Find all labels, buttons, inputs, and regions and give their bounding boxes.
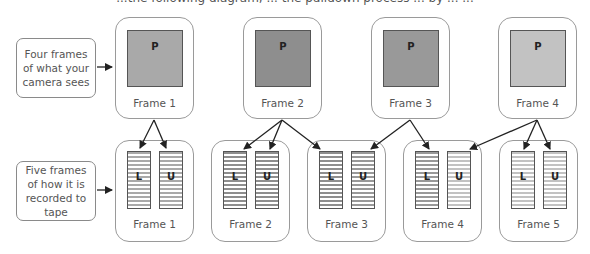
arrows-layer	[0, 0, 590, 254]
